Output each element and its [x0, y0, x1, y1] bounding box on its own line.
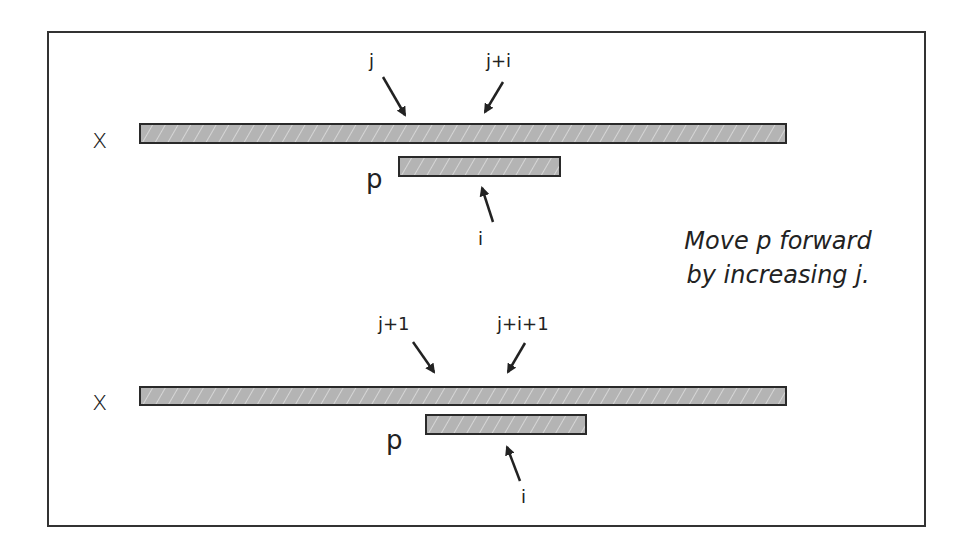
annotation-note: Move p forward by increasing j. [658, 224, 898, 292]
arrow-down-icon [485, 82, 503, 112]
arrow-up-icon [507, 447, 520, 481]
arrow-down-icon [383, 77, 405, 115]
arrow-down-icon [508, 343, 525, 372]
arrow-down-icon [413, 342, 434, 372]
note-line-2: by increasing j. [658, 258, 898, 292]
arrow-up-icon [482, 188, 493, 222]
note-line-1: Move p forward [658, 224, 898, 258]
